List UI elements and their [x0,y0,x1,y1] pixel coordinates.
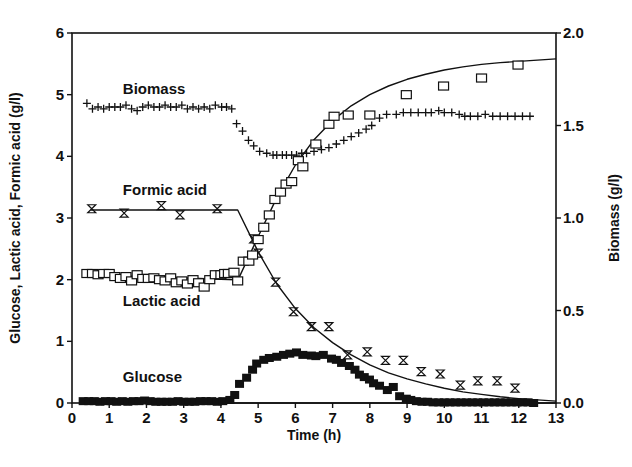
y-tick-label: 3 [56,209,64,226]
plus-marker [233,120,241,128]
filled-square-marker [319,351,328,359]
plus-marker [172,103,180,111]
y2-tick-label: 2.0 [563,24,584,41]
plus-marker [178,101,186,109]
plus-marker [518,112,526,120]
open-square-marker [233,277,243,285]
plus-marker [407,109,415,117]
y-tick-label: 6 [56,24,64,41]
plus-marker [526,112,534,120]
y-tick-label: 0 [56,394,64,411]
filled-square-marker [529,399,538,407]
hourglass-marker [157,202,165,210]
hourglass-marker [88,205,96,213]
y2-tick-label: 1.5 [563,117,584,134]
plus-marker [239,127,247,135]
x-tick-label: 1 [105,409,113,426]
plus-marker [448,109,456,117]
plus-marker [189,103,197,111]
plus-marker [414,109,422,117]
plus-marker [376,114,384,122]
y-axis-left-title: Glucose, Lactic acid, Formic acid (g/l) [7,92,23,343]
plus-marker [200,103,208,111]
plus-marker [144,101,152,109]
x-axis-ticks: 012345678910111213 [68,403,565,426]
series-label-formic-acid: Formic acid [123,181,207,198]
y-axis-left-ticks: 0123456 [56,24,72,411]
hourglass-marker [290,308,298,316]
plus-marker [133,107,141,115]
plus-marker [183,105,191,113]
plus-marker [94,103,102,111]
plus-marker [161,101,169,109]
plus-marker [427,109,435,117]
hourglass-marker [436,370,444,378]
x-tick-label: 11 [474,409,490,426]
x-tick-label: 2 [142,409,150,426]
hourglass-marker [272,278,280,286]
plus-marker [139,103,147,111]
plus-marker [368,122,376,130]
plus-marker [496,112,504,120]
x-tick-label: 4 [217,409,226,426]
open-square-marker [439,82,449,90]
plus-marker [250,142,258,150]
plus-marker [435,107,443,115]
plus-marker [100,105,108,113]
x-tick-label: 10 [436,409,453,426]
x-tick-label: 6 [291,409,299,426]
y2-tick-label: 0.5 [563,302,584,319]
open-square-marker [287,178,297,186]
filled-square-marker [230,391,239,399]
plus-marker [155,103,163,111]
plus-marker [511,112,519,120]
series-label-glucose: Glucose [123,368,182,385]
plus-marker [223,103,231,111]
data-markers [79,61,538,407]
x-tick-label: 7 [328,409,336,426]
plus-marker [504,112,512,120]
open-square-marker [329,112,339,120]
plus-marker [332,140,340,148]
plus-marker [399,109,407,117]
filled-square-marker [375,382,384,390]
hourglass-marker [474,377,482,385]
open-square-marker [253,236,263,244]
y-tick-label: 2 [56,271,64,288]
open-square-marker [401,91,411,99]
series-biomass [83,99,534,159]
open-square-marker [343,111,353,119]
filled-square-marker [389,383,398,391]
plus-marker [481,110,489,118]
hourglass-marker [399,356,407,364]
y-tick-label: 4 [56,147,65,164]
hourglass-marker [381,356,389,364]
plus-marker [340,136,348,144]
series-label-lactic-acid: Lactic acid [123,292,201,309]
plus-marker [83,99,91,107]
x-tick-label: 12 [510,409,527,426]
x-tick-label: 9 [403,409,411,426]
hourglass-marker [493,377,501,385]
hourglass-marker [307,323,315,331]
hourglass-marker [325,323,333,331]
plus-marker [206,105,214,113]
hourglass-marker [213,205,221,213]
open-square-marker [477,74,487,82]
open-square-marker [275,188,285,196]
y-tick-label: 1 [56,332,64,349]
y2-tick-label: 1.0 [563,209,584,226]
plus-marker [466,112,474,120]
hourglass-marker [363,348,371,356]
plus-marker [347,133,355,141]
open-square-marker [199,283,209,291]
series-label-biomass: Biomass [123,80,186,97]
open-square-marker [513,61,523,69]
open-square-marker [365,111,375,119]
filled-square-marker [298,351,307,359]
plus-marker [244,136,252,144]
hourglass-marker [176,211,184,219]
filled-square-marker [337,359,346,367]
plus-marker [211,101,219,109]
open-square-marker [298,163,308,171]
